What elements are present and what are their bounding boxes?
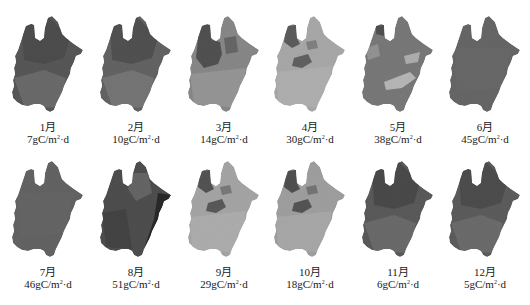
gpp-value-label: 6gC/m2·d (354, 279, 442, 290)
month-label: 2月 (92, 122, 180, 133)
month-map-panel-4: 4月 30gC/m2·d (266, 8, 354, 158)
gpp-value-label: 7gC/m2·d (4, 134, 92, 145)
gpp-value-label: 14gC/m2·d (180, 134, 268, 145)
month-label: 11月 (354, 267, 442, 278)
region-map (180, 8, 268, 120)
unit-exponent: 2 (148, 134, 151, 140)
map-body (188, 16, 259, 112)
region-map (4, 8, 92, 120)
month-map-panel-2: 2月 10gC/m2·d (92, 8, 180, 158)
unit-exponent: 2 (236, 134, 239, 140)
month-map-panel-5: 5月 38gC/m2·d (354, 8, 442, 158)
map-texture-overlay (188, 16, 259, 112)
unit-exponent: 2 (148, 279, 151, 285)
month-label: 3月 (180, 122, 268, 133)
gpp-value-label: 38gC/m2·d (354, 134, 442, 145)
month-label: 8月 (92, 267, 180, 278)
map-texture-overlay (362, 161, 433, 257)
gpp-value-label: 29gC/m2·d (180, 279, 268, 290)
unit-exponent: 2 (407, 279, 410, 285)
map-body (188, 161, 259, 257)
unit-exponent: 2 (322, 279, 325, 285)
month-label: 4月 (266, 122, 354, 133)
region-map (92, 153, 180, 265)
month-map-panel-6: 6月 45gC/m2·d (441, 8, 529, 158)
month-map-panel-1: 1月 7gC/m2·d (4, 8, 92, 158)
month-map-panel-9: 9月 29gC/m2·d (180, 153, 268, 303)
map-texture-overlay (449, 161, 520, 257)
gpp-value-label: 10gC/m2·d (92, 134, 180, 145)
unit-exponent: 2 (57, 134, 60, 140)
region-map (266, 153, 354, 265)
month-map-panel-8: 8月 51gC/m2·d (92, 153, 180, 303)
month-map-panel-10: 10月 18gC/m2·d (266, 153, 354, 303)
map-texture-overlay (362, 16, 433, 112)
map-texture-overlay (188, 161, 259, 257)
map-texture-overlay (100, 16, 171, 112)
map-texture-overlay (274, 16, 345, 112)
unit-exponent: 2 (410, 134, 413, 140)
gpp-value-label: 30gC/m2·d (266, 134, 354, 145)
unit-exponent: 2 (236, 279, 239, 285)
map-texture-overlay (12, 16, 83, 112)
month-label: 1月 (4, 122, 92, 133)
region-map (441, 153, 529, 265)
map-body (12, 161, 83, 257)
unit-exponent: 2 (60, 279, 63, 285)
map-body (100, 161, 171, 257)
map-texture-overlay (274, 161, 345, 257)
unit-exponent: 2 (322, 134, 325, 140)
region-map (4, 153, 92, 265)
gpp-value-label: 46gC/m2·d (4, 279, 92, 290)
monthly-gpp-map-grid: 1月 7gC/m2·d 2月 10gC/m2·d (0, 0, 530, 305)
gpp-value-label: 5gC/m2·d (441, 279, 529, 290)
month-map-panel-12: 12月 5gC/m2·d (441, 153, 529, 303)
map-texture-overlay (12, 161, 83, 257)
map-body (362, 161, 433, 257)
unit-exponent: 2 (497, 134, 500, 140)
map-body (12, 16, 83, 112)
gpp-value-label: 45gC/m2·d (441, 134, 529, 145)
region-map (354, 8, 442, 120)
region-map (354, 153, 442, 265)
region-map (441, 8, 529, 120)
month-label: 7月 (4, 267, 92, 278)
map-body (449, 161, 520, 257)
region-map (92, 8, 180, 120)
map-body (362, 16, 433, 112)
month-label: 6月 (441, 122, 529, 133)
gpp-value-label: 51gC/m2·d (92, 279, 180, 290)
month-map-panel-7: 7月 46gC/m2·d (4, 153, 92, 303)
map-body (274, 161, 345, 257)
month-label: 9月 (180, 267, 268, 278)
month-label: 5月 (354, 122, 442, 133)
month-map-panel-11: 11月 6gC/m2·d (354, 153, 442, 303)
map-body (449, 16, 520, 112)
month-label: 10月 (266, 267, 354, 278)
unit-exponent: 2 (494, 279, 497, 285)
month-map-panel-3: 3月 14gC/m2·d (180, 8, 268, 158)
map-texture-overlay (100, 161, 171, 257)
region-map (180, 153, 268, 265)
map-body (100, 16, 171, 112)
map-body (274, 16, 345, 112)
gpp-value-label: 18gC/m2·d (266, 279, 354, 290)
region-map (266, 8, 354, 120)
month-label: 12月 (441, 267, 529, 278)
map-texture-overlay (449, 16, 520, 112)
